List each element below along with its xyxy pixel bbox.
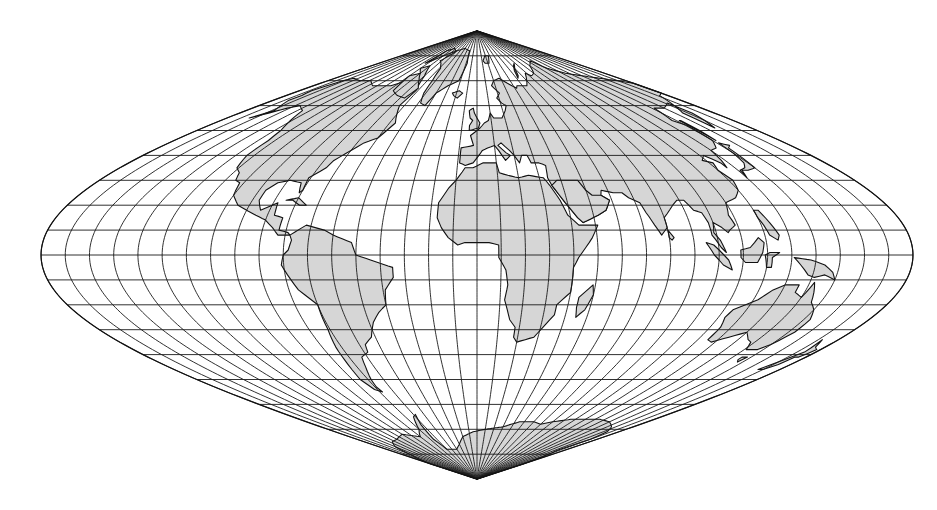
- landmass-madagascar: [576, 285, 594, 317]
- landmass-japan: [719, 143, 755, 178]
- landmass-philippines: [753, 210, 779, 240]
- landmass-great-britain: [469, 108, 480, 130]
- landmass-south-america: [281, 225, 393, 392]
- landmass-tasmania: [737, 357, 747, 362]
- landmass-cuba: [286, 198, 306, 206]
- graticule-layer: [41, 31, 913, 479]
- landmass-borneo: [741, 238, 764, 263]
- world-map: [0, 0, 937, 510]
- land-layer: [234, 48, 835, 479]
- landmass-iceland: [452, 91, 462, 98]
